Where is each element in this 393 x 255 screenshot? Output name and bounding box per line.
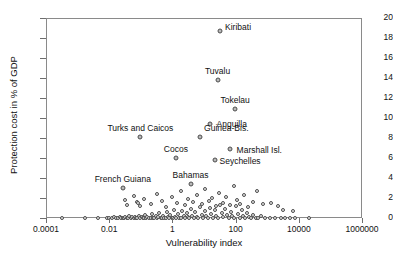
data-point	[186, 197, 190, 201]
point-label: Seychelles	[220, 157, 261, 166]
x-tick-label: 0.0001	[33, 225, 59, 234]
data-point	[269, 201, 273, 205]
data-point	[60, 216, 64, 220]
data-point	[203, 209, 207, 213]
data-point	[83, 216, 87, 220]
data-point	[189, 207, 193, 211]
x-tick-label: 10000	[287, 225, 311, 234]
data-point	[276, 204, 280, 208]
data-point	[183, 203, 187, 207]
y-tick-label: 18	[359, 33, 393, 42]
data-point-labeled	[120, 186, 125, 191]
data-point-labeled	[215, 78, 220, 83]
x-axis-label: Vulnerability index	[46, 238, 362, 248]
data-point	[249, 216, 253, 220]
data-point	[291, 209, 295, 213]
data-point	[281, 208, 285, 212]
data-point	[170, 195, 174, 199]
data-point	[179, 189, 183, 193]
data-point	[138, 204, 142, 208]
y-tick-label: 4	[359, 173, 393, 182]
data-point	[203, 187, 207, 191]
point-label: Tuvalu	[205, 67, 230, 76]
data-point	[160, 199, 164, 203]
data-point	[149, 202, 153, 206]
data-point	[200, 202, 204, 206]
data-point	[283, 216, 287, 220]
data-point	[193, 210, 197, 214]
x-tick	[172, 218, 173, 223]
data-point	[123, 198, 127, 202]
point-label: Marshall Isl.	[237, 146, 282, 155]
point-label: Kiribati	[225, 23, 251, 32]
data-point	[155, 192, 159, 196]
data-point	[235, 198, 239, 202]
data-point	[221, 201, 225, 205]
data-point	[251, 200, 255, 204]
y-tick-label: 14	[359, 73, 393, 82]
data-point-labeled	[188, 182, 193, 187]
y-tick-label: 0	[359, 213, 393, 222]
data-point-labeled	[138, 135, 143, 140]
data-point-labeled	[212, 158, 217, 163]
y-tick-label: 8	[359, 133, 393, 142]
x-tick-label: 1000000	[345, 225, 378, 234]
data-point	[216, 216, 220, 220]
data-point	[142, 197, 146, 201]
y-tick-label: 2	[359, 193, 393, 202]
data-point-labeled	[173, 156, 178, 161]
point-label: Bahamas	[173, 171, 209, 180]
data-point	[207, 199, 211, 203]
data-point	[293, 216, 297, 220]
y-tick-label: 20	[359, 13, 393, 22]
data-point	[307, 216, 311, 220]
data-point-labeled	[233, 107, 238, 112]
data-point	[125, 203, 129, 207]
data-point	[246, 205, 250, 209]
data-point	[195, 193, 199, 197]
y-tick-label: 16	[359, 53, 393, 62]
x-tick	[236, 218, 237, 223]
data-point	[240, 208, 244, 212]
data-point	[261, 202, 265, 206]
data-point	[191, 200, 195, 204]
data-point-labeled	[227, 147, 232, 152]
point-label: French Guiana	[95, 175, 151, 184]
data-point	[229, 210, 233, 214]
x-tick-label: 1	[170, 225, 175, 234]
data-point	[242, 193, 246, 197]
data-point	[238, 202, 242, 206]
data-point	[96, 216, 100, 220]
data-point	[175, 201, 179, 205]
data-point	[288, 216, 292, 220]
x-tick	[362, 218, 363, 223]
data-point	[273, 216, 277, 220]
x-tick-label: 100	[229, 225, 243, 234]
data-point	[206, 216, 210, 220]
data-point-labeled	[218, 29, 223, 34]
data-point	[217, 191, 221, 195]
scatter-chart: Protection cost in % of GDP 024681012141…	[0, 0, 393, 255]
point-label: Guinea-Bis.	[204, 124, 248, 133]
data-point	[268, 216, 272, 220]
y-tick-label: 12	[359, 93, 393, 102]
data-point	[164, 205, 168, 209]
data-point	[208, 206, 212, 210]
plot-area: KiribatiTuvaluTokelauAnguillaGuinea-Bis.…	[46, 18, 362, 218]
point-label: Cocos	[164, 145, 188, 154]
x-tick-label: 0.01	[101, 225, 118, 234]
data-point	[223, 207, 227, 211]
data-point	[213, 208, 217, 212]
data-point	[214, 204, 218, 208]
data-point	[132, 194, 136, 198]
data-point	[232, 184, 236, 188]
data-point	[210, 196, 214, 200]
point-label: Turks and Caicos	[107, 124, 173, 133]
point-label: Tokelau	[220, 96, 249, 105]
x-tick	[46, 218, 47, 223]
x-tick	[109, 218, 110, 223]
data-point-labeled	[198, 135, 203, 140]
x-tick	[299, 218, 300, 223]
y-axis-label: Protection cost in % of GDP	[9, 15, 19, 215]
y-tick-label: 6	[359, 153, 393, 162]
